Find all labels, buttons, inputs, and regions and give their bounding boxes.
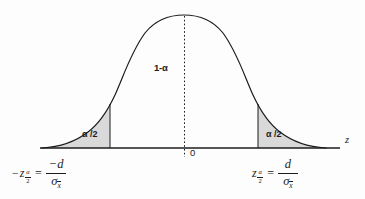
alpha-over-two-right-label: α /2 (266, 130, 282, 139)
left-formula-minus-sign: − (12, 166, 20, 181)
left-formula-equals-sign: = (31, 166, 46, 181)
right-fraction-denominator: σ x (280, 174, 296, 189)
left-formula-fraction: −d σ x (46, 158, 67, 189)
right-formula-fraction: d σ x (278, 158, 298, 189)
left-critical-value-formula: − z α 2 = −d σ x (12, 158, 66, 189)
left-tail-shaded-region (42, 104, 110, 148)
right-formula-alpha-half-subscript: α 2 (257, 169, 263, 185)
right-subscript-numerator: α (258, 169, 261, 176)
left-subscript-numerator: α (26, 169, 29, 176)
normal-distribution-diagram: 1-α α /2 α /2 0 z − z α 2 = −d σ x (0, 0, 365, 199)
left-fraction-numerator: −d (46, 158, 67, 173)
left-x-bar-subscript: x (57, 181, 60, 191)
left-subscript-denominator: 2 (26, 178, 29, 185)
right-tail-shaded-region (258, 104, 326, 148)
right-x-bar-subscript: x (289, 181, 292, 191)
left-formula-alpha-half-subscript: α 2 (25, 169, 31, 185)
right-x-subscript-letter: x (289, 181, 292, 190)
origin-label: 0 (190, 148, 195, 158)
left-fraction-denominator: σ x (48, 174, 64, 189)
right-subscript-denominator: 2 (259, 178, 262, 185)
right-fraction-numerator: d (282, 158, 294, 173)
right-formula-equals-sign: = (263, 166, 278, 181)
z-axis-label: z (345, 135, 349, 146)
alpha-over-two-left-label: α /2 (82, 130, 98, 139)
left-formula-z-symbol: z (20, 166, 25, 181)
right-critical-value-formula: z α 2 = d σ x (252, 158, 298, 189)
right-formula-z-symbol: z (252, 166, 257, 181)
confidence-level-label: 1-α (154, 63, 168, 73)
left-x-subscript-letter: x (57, 181, 60, 190)
